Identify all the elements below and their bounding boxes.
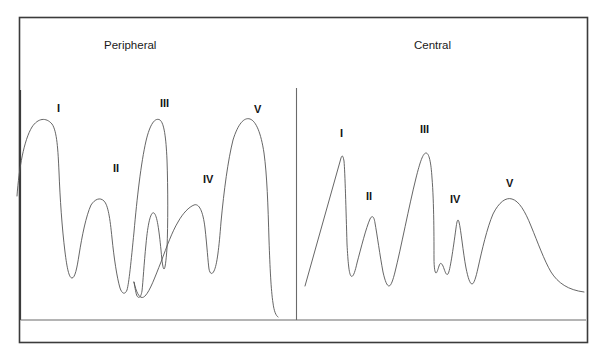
central-peak-label-1: I [340, 127, 343, 139]
figure-frame [20, 18, 588, 343]
peripheral-waveform [17, 119, 168, 297]
peripheral-peak-label-1: I [57, 102, 60, 114]
central-waveform [305, 153, 584, 292]
central-peak-label-3: III [420, 123, 429, 135]
central-peak-label-4: IV [450, 193, 461, 205]
waveform-figure: Peripheral Central I II III IV V I II II… [0, 0, 605, 357]
figure-container: Peripheral Central I II III IV V I II II… [0, 0, 605, 357]
peripheral-peak-label-2: II [113, 162, 119, 174]
central-peak-label-5: V [506, 177, 514, 189]
peripheral-peak-label-4: IV [203, 173, 214, 185]
peripheral-peak-label-3: III [160, 97, 169, 109]
panel-title-peripheral: Peripheral [104, 39, 156, 51]
peripheral-peak-label-5: V [254, 103, 262, 115]
central-peak-label-2: II [366, 190, 372, 202]
panel-title-central: Central [414, 39, 451, 51]
peripheral-waveform-part2 [134, 119, 278, 317]
